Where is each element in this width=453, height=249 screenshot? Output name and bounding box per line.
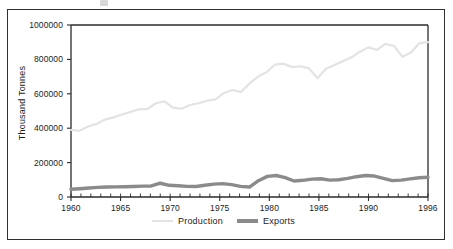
series-line-exports bbox=[71, 176, 428, 190]
x-axis-tick-label: 1990 bbox=[349, 203, 389, 213]
legend-item-exports: Exports bbox=[237, 216, 295, 226]
chart-legend: Production Exports bbox=[152, 216, 295, 226]
y-axis-tick-label: 800000 bbox=[0, 54, 63, 64]
series-line-production bbox=[71, 42, 428, 131]
y-axis-tick-label: 600000 bbox=[0, 89, 63, 99]
y-axis-tick-label: 200000 bbox=[0, 158, 63, 168]
x-axis-tick-label: 1980 bbox=[249, 203, 289, 213]
x-axis-tick-label: 1960 bbox=[51, 203, 91, 213]
y-axis-tick-label: 0 bbox=[0, 192, 63, 202]
chart-figure: 02000004000006000008000001000000 1960196… bbox=[0, 0, 453, 249]
y-axis-tick-label: 400000 bbox=[0, 123, 63, 133]
legend-item-production: Production bbox=[152, 216, 223, 226]
y-axis-title: Thousand Tonnes bbox=[17, 55, 27, 151]
legend-label-exports: Exports bbox=[263, 216, 295, 226]
y-axis-tick-label: 1000000 bbox=[0, 20, 63, 30]
x-axis-tick-label: 1985 bbox=[299, 203, 339, 213]
x-axis-tick-label: 1996 bbox=[408, 203, 448, 213]
legend-swatch-exports-icon bbox=[237, 219, 258, 222]
legend-label-production: Production bbox=[178, 216, 223, 226]
plot-area: 02000004000006000008000001000000 1960196… bbox=[0, 0, 453, 249]
x-axis-tick-label: 1975 bbox=[200, 203, 240, 213]
x-axis-tick-label: 1970 bbox=[150, 203, 190, 213]
legend-swatch-production-icon bbox=[152, 220, 173, 222]
x-axis-tick-label: 1965 bbox=[101, 203, 141, 213]
